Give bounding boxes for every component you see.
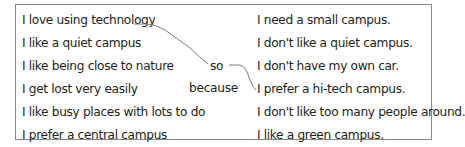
right-item-5: I don't like too many people around.	[257, 101, 465, 124]
left-item-2: I like a quiet campus	[22, 32, 205, 55]
left-item-6: I prefer a central campus	[22, 124, 205, 147]
left-item-4: I get lost very easily	[22, 78, 205, 101]
conjunction-so: so	[210, 59, 223, 73]
left-item-1: I love using technology	[22, 9, 205, 32]
right-item-3: I don't have my own car.	[257, 55, 465, 78]
conjunction-because: because	[189, 81, 238, 95]
right-item-2: I don't like a quiet campus.	[257, 32, 465, 55]
left-item-5: I like busy places with lots to do	[22, 101, 205, 124]
right-column-list: I need a small campus. I don't like a qu…	[257, 9, 465, 147]
left-column-list: I love using technology I like a quiet c…	[22, 9, 205, 147]
right-item-1: I need a small campus.	[257, 9, 465, 32]
left-item-3: I like being close to nature	[22, 55, 205, 78]
right-item-4: I prefer a hi-tech campus.	[257, 78, 465, 101]
right-item-6: I like a green campus.	[257, 124, 465, 147]
